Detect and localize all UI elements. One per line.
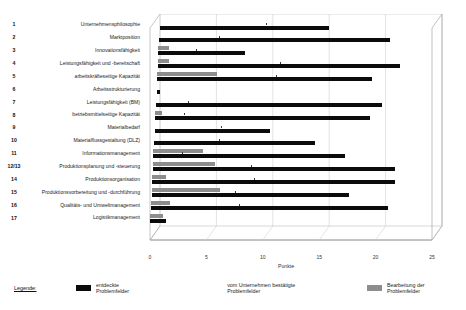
bar-bearbeitung [152, 175, 166, 179]
category-name: Leistungsfähigkeit (BM) [28, 99, 146, 105]
category-row: 8betriebsmittelseitige Kapazität [0, 108, 146, 121]
x-tick-label: 5 [205, 254, 208, 260]
bar-bearbeitung [155, 111, 162, 115]
confirmed-problem-marker [276, 75, 277, 77]
bar-entdeckte [160, 26, 329, 30]
bar-bearbeitung [153, 162, 215, 166]
legend-swatch-gray-icon [367, 285, 382, 291]
legend-label-entdeckte: entdeckte Problemfelder [96, 282, 149, 294]
confirmed-problem-marker [188, 101, 189, 103]
bar-bearbeitung [152, 188, 221, 192]
category-name: Qualitäts- und Umweltmanagement [28, 202, 146, 208]
category-number: 4 [0, 60, 28, 66]
category-number: 6 [0, 86, 28, 92]
category-row: 12/13Produktionsplanung und -steuerung [0, 160, 146, 173]
x-tick-label: 15 [316, 254, 322, 260]
bar-bearbeitung [150, 214, 162, 218]
x-axis-title: Punkte [278, 263, 294, 269]
bar-entdeckte [150, 219, 166, 223]
x-tick-label: 25 [429, 254, 435, 260]
grid-line-floor [263, 226, 273, 240]
x-axis: Punkte 0510152025 [146, 246, 446, 272]
category-row: 11Informationsmanagement [0, 147, 146, 160]
bar-entdeckte [154, 141, 315, 145]
bar-bearbeitung [158, 59, 169, 63]
category-row: 9Materialbedarf [0, 121, 146, 134]
confirmed-problem-marker [184, 113, 185, 115]
category-row: 6Arbeitsstrukturierung [0, 82, 146, 95]
category-number: 12/13 [0, 163, 28, 169]
category-row: 17Logistikmanagement [0, 211, 146, 224]
confirmed-problem-marker [280, 62, 281, 64]
category-number: 16 [0, 202, 28, 208]
bar-entdeckte [157, 77, 371, 81]
category-name: arbeitskräfteseitige Kapazität [28, 73, 146, 79]
category-name: Produktionsvorbereitung und -durchführun… [28, 189, 146, 195]
legend-label-bearbeitung: Bearbeitung der Problemfelder [387, 282, 454, 294]
confirmed-problem-marker [235, 191, 236, 193]
category-name: Leistungsfähigkeit und -bereitschaft [28, 60, 146, 66]
grid-line-floor [319, 226, 329, 240]
x-tick-label: 10 [260, 254, 266, 260]
confirmed-problem-marker [219, 36, 220, 38]
category-row: 16Qualitäts- und Umweltmanagement [0, 198, 146, 211]
plot-area [146, 14, 446, 246]
bar-bearbeitung [153, 149, 203, 153]
chart-legend: Legende: entdeckte Problemfelder vom Unt… [14, 281, 454, 295]
category-row: 5arbeitskräfteseitige Kapazität [0, 70, 146, 83]
category-number: 14 [0, 176, 28, 182]
bar-entdeckte [153, 154, 345, 158]
confirmed-problem-marker [219, 139, 220, 141]
category-label-column: 1Unternehmensphilosophie2Marktposition3I… [0, 14, 146, 246]
category-number: 7 [0, 99, 28, 105]
category-number: 17 [0, 215, 28, 221]
category-name: Logistikmanagement [28, 214, 146, 220]
category-number: 11 [0, 150, 28, 156]
category-name: Materialflussgestaltung (DLZ) [28, 137, 146, 143]
grid-line-floor [432, 226, 442, 240]
frame-top-left-depth [150, 14, 160, 28]
category-name: Unternehmensphilosophie [28, 21, 146, 27]
category-number: 5 [0, 73, 28, 79]
category-name: Produktionsplanung und -steuerung [28, 163, 146, 169]
bar-bearbeitung [157, 72, 217, 76]
bar-entdeckte [158, 51, 245, 55]
category-name: Materialbedarf [28, 124, 146, 130]
category-name: Arbeitsstrukturierung [28, 86, 146, 92]
bar-entdeckte [157, 90, 160, 94]
confirmed-problem-marker [239, 204, 240, 206]
bar-entdeckte [151, 206, 388, 210]
category-number: 9 [0, 124, 28, 130]
bar-entdeckte [152, 180, 395, 184]
category-name: betriebsmittelseitige Kapazität [28, 111, 146, 117]
legend-item-bearbeitung: Bearbeitung der Problemfelder [367, 282, 454, 294]
category-number: 1 [0, 21, 28, 27]
bar-entdeckte [155, 116, 369, 120]
category-number: 10 [0, 137, 28, 143]
bar-entdeckte [158, 64, 401, 68]
category-number: 2 [0, 34, 28, 40]
confirmed-problem-marker [196, 49, 197, 51]
category-row: 1Unternehmensphilosophie [0, 18, 146, 31]
category-row: 2Marktposition [0, 31, 146, 44]
confirmed-problem-marker [251, 165, 252, 167]
confirmed-problem-marker [221, 126, 222, 128]
confirmed-problem-marker [254, 178, 255, 180]
frame-left-floor [150, 226, 160, 240]
bar-entdeckte [155, 129, 270, 133]
legend-title: Legende: [14, 285, 62, 291]
category-row: 7Leistungsfähigkeit (BM) [0, 95, 146, 108]
confirmed-problem-marker [182, 152, 183, 154]
legend-label-bestaetigte: vom Unternehmen bestätigte Problemfelder [227, 282, 323, 294]
category-number: 15 [0, 189, 28, 195]
category-number: 8 [0, 112, 28, 118]
bar-entdeckte [152, 193, 349, 197]
category-name: Marktposition [28, 34, 146, 40]
bar-bearbeitung [158, 46, 168, 50]
legend-swatch-none-icon [207, 285, 222, 291]
category-row: 14Produktionsorganisation [0, 173, 146, 186]
confirmed-problem-marker [266, 23, 267, 25]
legend-swatch-black-icon [76, 285, 91, 291]
category-row: 15Produktionsvorbereitung und -durchführ… [0, 185, 146, 198]
category-number: 3 [0, 47, 28, 53]
